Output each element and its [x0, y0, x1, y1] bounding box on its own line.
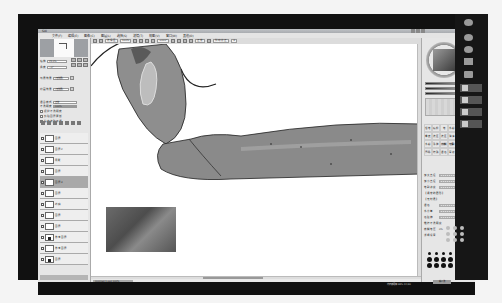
visibility-toggle[interactable]	[41, 247, 44, 250]
zoom-out-button[interactable]	[133, 39, 137, 43]
pad-button[interactable]	[453, 238, 457, 242]
tool-watercolor-2[interactable]: 水彩2	[424, 140, 432, 148]
pad-button[interactable]	[460, 226, 464, 230]
tool-select-eraser[interactable]: 选区擦	[440, 132, 448, 140]
menu-file[interactable]: 文件(F)	[52, 34, 62, 38]
new-layer-icon[interactable]	[41, 121, 45, 125]
new-folder-icon[interactable]	[53, 121, 57, 125]
pad-button[interactable]	[446, 232, 450, 236]
gadget-tile[interactable]	[460, 96, 482, 104]
size-preset[interactable]	[449, 252, 452, 255]
selection-toggle[interactable]: 选择区	[105, 39, 118, 43]
visibility-toggle[interactable]	[41, 214, 44, 217]
angle-field[interactable]: +000°	[157, 39, 169, 43]
visibility-toggle[interactable]	[41, 258, 44, 261]
saturation-value-square[interactable]	[433, 49, 455, 71]
layer-list-scrollbar[interactable]	[40, 275, 88, 280]
visibility-toggle[interactable]	[41, 181, 44, 184]
menu-edit[interactable]: 编辑(E)	[68, 34, 78, 38]
size-preset[interactable]	[435, 252, 438, 255]
clipping-checkbox[interactable]	[40, 115, 43, 118]
tool-special[interactable]: 特殊	[432, 148, 440, 156]
tool-impasto[interactable]: 厚涂	[424, 148, 432, 156]
tool-select-pen[interactable]: 选区	[432, 132, 440, 140]
mode-select[interactable]: 正常	[195, 39, 205, 43]
size-preset[interactable]	[434, 257, 439, 262]
menu-filter[interactable]: 滤镜(T)	[133, 34, 143, 38]
pad-button[interactable]	[446, 238, 450, 242]
delete-layer-icon[interactable]	[77, 121, 81, 125]
layer-row-selected[interactable]: 图层3	[40, 177, 88, 188]
menu-other[interactable]: 其他(O)	[183, 34, 194, 38]
flip-button[interactable]	[189, 39, 193, 43]
size-preset[interactable]	[427, 263, 432, 268]
tool-blend[interactable]: 混色	[440, 148, 448, 156]
tool-blur[interactable]: 模糊	[440, 140, 448, 148]
tool-pen[interactable]: 笔	[440, 124, 448, 132]
painting-effect-dropdown[interactable]	[70, 87, 74, 91]
rotate-reset-button[interactable]	[183, 39, 187, 43]
gadget-tile[interactable]	[460, 108, 482, 116]
stabilizer-select[interactable]: 3	[231, 39, 237, 43]
nav-angle-field[interactable]: +0°	[47, 66, 67, 69]
painting-effect-select[interactable]: [无效果]	[53, 88, 69, 91]
layer-row[interactable]: 图层	[40, 133, 88, 144]
layer-row[interactable]: 图层	[40, 254, 88, 265]
merge-down-icon[interactable]	[65, 121, 69, 125]
layer-row[interactable]: 线稿	[40, 199, 88, 210]
paper-texture-select[interactable]: [无效果]	[53, 77, 69, 80]
rotate-left-button[interactable]	[171, 39, 175, 43]
visibility-toggle[interactable]	[41, 159, 44, 162]
visibility-toggle[interactable]	[41, 170, 44, 173]
nav-reset-button[interactable]	[83, 58, 88, 62]
gadget-icon[interactable]	[464, 58, 473, 65]
rotate-right-button[interactable]	[177, 39, 181, 43]
menu-select[interactable]: 选择(S)	[117, 34, 127, 38]
gadget-icon[interactable]	[464, 34, 473, 41]
pad-button[interactable]	[453, 226, 457, 230]
size-preset[interactable]	[427, 257, 432, 262]
zoom-reset-button[interactable]	[151, 39, 155, 43]
size-preset[interactable]	[441, 257, 446, 262]
redo-button[interactable]	[99, 39, 103, 43]
layer-row[interactable]: 图层2	[40, 144, 88, 155]
menu-layer[interactable]: 图层(L)	[101, 34, 111, 38]
navigator[interactable]	[40, 39, 88, 57]
size-preset[interactable]	[434, 263, 439, 268]
size-preset[interactable]	[441, 263, 446, 268]
brush-shape-select[interactable]: 【通常的圆形】	[424, 191, 450, 195]
layer-row[interactable]: 图层	[40, 221, 88, 232]
tool-smudge[interactable]: 涂抹	[432, 140, 440, 148]
layer-row[interactable]: 参考图层	[40, 243, 88, 254]
taskbar-button[interactable]: 输入法	[433, 280, 451, 284]
size-preset[interactable]	[448, 257, 453, 262]
gadget-icon[interactable]	[464, 19, 473, 26]
menu-image[interactable]: 图像(C)	[84, 34, 94, 38]
new-linework-layer-icon[interactable]	[47, 121, 51, 125]
tool-airbrush[interactable]: 喷枪	[432, 124, 440, 132]
scrollbar-thumb[interactable]	[203, 277, 263, 279]
tool-pencil[interactable]: 铅笔	[424, 124, 432, 132]
transfer-down-icon[interactable]	[59, 121, 63, 125]
layer-row[interactable]: 参考图层	[40, 232, 88, 243]
pad-button[interactable]	[446, 226, 450, 230]
brush-texture-select[interactable]: 【无材质】	[424, 197, 450, 201]
layer-row[interactable]: 图层	[40, 188, 88, 199]
gadget-icon[interactable]	[464, 46, 473, 53]
tool-eraser[interactable]: 橡皮	[424, 132, 432, 140]
zoom-in-button[interactable]	[139, 39, 143, 43]
visibility-toggle[interactable]	[41, 225, 44, 228]
pad-button[interactable]	[453, 232, 457, 236]
mode-toggle[interactable]	[207, 39, 211, 43]
horizontal-scrollbar[interactable]	[91, 276, 425, 279]
zoom-field[interactable]: 100%	[120, 39, 131, 43]
clipping-option[interactable]: 剪贴图层蒙版	[40, 114, 62, 118]
visibility-toggle[interactable]	[41, 236, 44, 239]
nav-flip-button[interactable]	[83, 63, 88, 67]
clear-layer-icon[interactable]	[71, 121, 75, 125]
menu-view[interactable]: 视图(V)	[149, 34, 159, 38]
pad-button[interactable]	[460, 238, 464, 242]
gadget-tile[interactable]	[460, 84, 482, 92]
size-preset[interactable]	[448, 263, 453, 268]
layer-row[interactable]: 阴影	[40, 155, 88, 166]
